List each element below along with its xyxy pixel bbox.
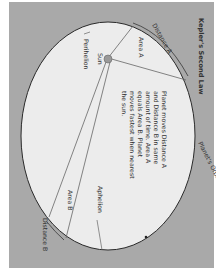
- sun-icon: [104, 55, 112, 63]
- orbit-label: Planet's Orbit Around Sun: [197, 140, 216, 214]
- kepler-diagram: Kepler's Second Law Distance A Area A Su…: [0, 0, 216, 271]
- description-line-2: and Distance B in same: [153, 91, 160, 164]
- description-line-4: equals Area B. Planet: [136, 91, 144, 158]
- description-line-3: amount of time. Area A: [145, 91, 152, 164]
- area-a-label: Area A: [138, 37, 145, 58]
- description-line-6: the sun.: [121, 91, 128, 116]
- description-line-5: moves fastest when nearest: [129, 91, 136, 179]
- perihelion-label: Perihelion: [83, 39, 90, 70]
- diagram-title: Kepler's Second Law: [197, 18, 205, 95]
- planet-marker: [145, 236, 148, 239]
- aphelion-label: Aphelion: [96, 186, 104, 213]
- area-b-label: Area B: [67, 190, 74, 210]
- distance-b-label: Distance B: [42, 218, 49, 251]
- description-line-1: Planet moves Distance A: [161, 91, 168, 169]
- sun-label: Sun: [97, 53, 104, 65]
